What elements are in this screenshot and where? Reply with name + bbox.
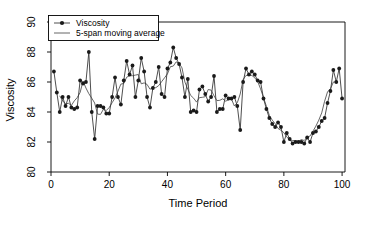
data-point xyxy=(136,79,140,83)
data-point xyxy=(157,65,161,69)
data-point xyxy=(87,50,91,54)
data-point xyxy=(186,77,190,81)
data-point xyxy=(110,95,114,99)
x-axis-title: Time Period xyxy=(169,197,228,209)
data-point xyxy=(131,64,135,68)
data-point xyxy=(250,70,254,74)
chart-canvas: 808284868890 020406080100 Viscosity Time… xyxy=(0,0,370,226)
data-point xyxy=(288,137,292,141)
data-point xyxy=(279,125,283,129)
data-point xyxy=(75,106,79,110)
data-point xyxy=(90,110,94,114)
x-axis-tick-labels: 020406080100 xyxy=(48,179,351,190)
data-point xyxy=(134,95,138,99)
data-point xyxy=(163,95,167,99)
data-point xyxy=(221,107,225,111)
viscosity-time-series-chart: 808284868890 020406080100 Viscosity Time… xyxy=(0,0,370,226)
y-axis-tick-labels: 808284868890 xyxy=(26,16,37,178)
y-tick-label: 86 xyxy=(26,76,37,88)
data-point xyxy=(224,94,228,98)
data-point xyxy=(215,110,219,114)
data-point xyxy=(232,95,236,99)
data-point xyxy=(119,103,123,107)
data-point xyxy=(84,80,88,84)
data-point xyxy=(122,79,126,83)
data-point xyxy=(107,112,111,116)
data-point xyxy=(200,85,204,89)
data-point xyxy=(209,95,213,99)
data-point xyxy=(67,95,71,99)
data-point xyxy=(145,95,149,99)
y-tick-label: 90 xyxy=(26,16,37,28)
data-point xyxy=(148,106,152,110)
data-point xyxy=(142,70,146,74)
data-point xyxy=(166,67,170,71)
data-point xyxy=(52,70,56,74)
data-point xyxy=(314,130,318,134)
data-point xyxy=(282,140,286,144)
data-point xyxy=(139,56,143,60)
data-point xyxy=(64,104,68,108)
data-point xyxy=(267,116,271,120)
x-tick-label: 20 xyxy=(104,179,116,190)
data-point xyxy=(78,79,82,83)
y-tick-label: 88 xyxy=(26,46,37,58)
data-point xyxy=(331,68,335,72)
data-point xyxy=(113,76,117,80)
data-point xyxy=(302,142,306,146)
x-tick-label: 100 xyxy=(334,179,351,190)
data-point xyxy=(329,89,333,93)
data-point xyxy=(171,46,175,50)
data-point xyxy=(326,101,330,105)
legend-label-viscosity: Viscosity xyxy=(76,18,110,28)
data-point xyxy=(323,116,327,120)
legend-label-moving-average: 5-span moving average xyxy=(76,28,165,38)
data-point xyxy=(55,91,59,95)
viscosity-line xyxy=(54,48,342,144)
data-point xyxy=(276,121,280,125)
data-point xyxy=(285,131,289,135)
data-point xyxy=(308,140,312,144)
data-point xyxy=(253,73,257,77)
data-point xyxy=(241,80,245,84)
data-point xyxy=(212,74,216,78)
plot-frame xyxy=(51,22,345,172)
data-point xyxy=(198,88,202,92)
data-point xyxy=(247,73,251,77)
x-tick-label: 40 xyxy=(162,179,174,190)
data-point xyxy=(265,107,269,111)
data-point xyxy=(102,106,106,110)
x-tick-label: 80 xyxy=(278,179,290,190)
chart-legend: Viscosity 5-span moving average xyxy=(49,16,166,41)
data-point xyxy=(235,104,239,108)
data-point xyxy=(195,110,199,114)
data-point xyxy=(262,97,266,101)
data-point xyxy=(93,137,97,141)
y-tick-label: 84 xyxy=(26,106,37,118)
data-point xyxy=(317,125,321,129)
data-point xyxy=(174,56,178,60)
data-point xyxy=(61,95,65,99)
x-tick-label: 0 xyxy=(48,179,54,190)
y-axis-title: Viscosity xyxy=(4,78,16,122)
data-point xyxy=(116,95,120,99)
data-point xyxy=(128,73,132,77)
data-point xyxy=(168,61,172,65)
data-point xyxy=(206,100,210,104)
data-point xyxy=(180,76,184,80)
data-point xyxy=(259,80,263,84)
data-point xyxy=(340,97,344,101)
data-point xyxy=(320,119,324,123)
data-point xyxy=(244,67,248,71)
x-tick-label: 60 xyxy=(220,179,232,190)
data-point xyxy=(334,80,338,84)
data-point xyxy=(337,67,341,71)
legend-marker-viscosity xyxy=(60,21,64,25)
data-point xyxy=(238,128,242,132)
data-point xyxy=(273,125,277,129)
data-point xyxy=(160,92,164,96)
y-tick-label: 82 xyxy=(26,136,37,148)
data-point xyxy=(305,136,309,140)
data-point xyxy=(203,92,207,96)
y-tick-label: 80 xyxy=(26,166,37,178)
